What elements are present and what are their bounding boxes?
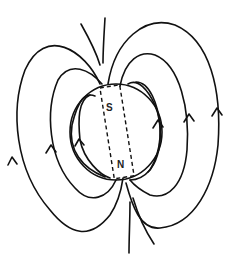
arrow-up-icon <box>75 139 84 146</box>
field-line-right-middle <box>120 54 188 196</box>
field-line-top-left <box>81 24 100 65</box>
field-line-bottom-center <box>129 202 130 253</box>
field-line-right-innermost <box>136 82 160 172</box>
south-pole-label: S <box>106 102 113 113</box>
north-pole-label: N <box>117 159 124 170</box>
field-line-right-outer <box>108 23 219 228</box>
arrow-up-icon <box>184 114 194 122</box>
field-line-top-center <box>103 18 105 63</box>
arrow-up-icon <box>212 108 222 116</box>
arrow-up-icon <box>8 157 17 165</box>
magnetic-field-diagram: S N <box>0 0 235 270</box>
